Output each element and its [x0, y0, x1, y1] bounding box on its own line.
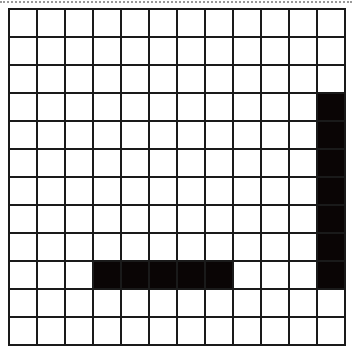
grid-cell[interactable] — [94, 318, 122, 346]
grid-cell[interactable] — [234, 150, 262, 178]
grid-cell[interactable] — [234, 66, 262, 94]
grid-cell[interactable] — [290, 122, 318, 150]
grid-cell[interactable] — [38, 290, 66, 318]
grid-cell[interactable] — [178, 206, 206, 234]
grid-cell[interactable] — [262, 290, 290, 318]
grid-cell[interactable] — [10, 262, 38, 290]
grid-cell[interactable] — [10, 94, 38, 122]
grid-cell[interactable] — [38, 318, 66, 346]
grid-cell-filled[interactable] — [122, 262, 150, 290]
grid-cell[interactable] — [318, 38, 346, 66]
grid-cell-filled[interactable] — [318, 234, 346, 262]
grid-cell[interactable] — [178, 66, 206, 94]
grid-cell[interactable] — [38, 38, 66, 66]
grid-cell[interactable] — [66, 38, 94, 66]
grid-cell[interactable] — [94, 290, 122, 318]
grid-cell[interactable] — [10, 178, 38, 206]
grid-cell[interactable] — [122, 150, 150, 178]
grid-cell[interactable] — [66, 10, 94, 38]
grid-cell[interactable] — [206, 66, 234, 94]
grid-cell[interactable] — [38, 122, 66, 150]
grid-cell[interactable] — [290, 206, 318, 234]
grid-cell[interactable] — [262, 150, 290, 178]
grid-cell[interactable] — [150, 38, 178, 66]
grid-cell[interactable] — [206, 150, 234, 178]
grid-cell[interactable] — [290, 234, 318, 262]
grid-cell-filled[interactable] — [318, 178, 346, 206]
grid-cell[interactable] — [150, 94, 178, 122]
grid-cell[interactable] — [290, 178, 318, 206]
grid-cell[interactable] — [38, 262, 66, 290]
grid-cell[interactable] — [66, 262, 94, 290]
grid-cell[interactable] — [150, 150, 178, 178]
grid-cell[interactable] — [150, 290, 178, 318]
grid-cell[interactable] — [94, 206, 122, 234]
grid-cell[interactable] — [234, 122, 262, 150]
grid-cell[interactable] — [94, 178, 122, 206]
grid-cell[interactable] — [150, 206, 178, 234]
grid-cell[interactable] — [178, 94, 206, 122]
grid-cell[interactable] — [150, 318, 178, 346]
grid-cell[interactable] — [234, 38, 262, 66]
grid-cell[interactable] — [290, 66, 318, 94]
grid-cell[interactable] — [10, 206, 38, 234]
grid-cell[interactable] — [234, 290, 262, 318]
grid-cell[interactable] — [262, 262, 290, 290]
grid-cell[interactable] — [122, 94, 150, 122]
grid-cell[interactable] — [262, 318, 290, 346]
grid-cell[interactable] — [178, 290, 206, 318]
grid-cell[interactable] — [122, 38, 150, 66]
grid-cell-filled[interactable] — [178, 262, 206, 290]
grid-cell[interactable] — [66, 94, 94, 122]
grid-cell[interactable] — [94, 66, 122, 94]
grid-cell[interactable] — [10, 122, 38, 150]
grid-cell[interactable] — [262, 122, 290, 150]
grid-cell[interactable] — [94, 94, 122, 122]
grid-cell[interactable] — [94, 150, 122, 178]
grid-cell[interactable] — [150, 122, 178, 150]
grid-cell-filled[interactable] — [206, 262, 234, 290]
grid-cell[interactable] — [150, 10, 178, 38]
grid-cell[interactable] — [206, 290, 234, 318]
grid-cell[interactable] — [178, 38, 206, 66]
grid-cell[interactable] — [178, 178, 206, 206]
grid-cell[interactable] — [262, 10, 290, 38]
grid-cell[interactable] — [262, 206, 290, 234]
grid-cell[interactable] — [122, 206, 150, 234]
grid-cell[interactable] — [122, 318, 150, 346]
grid-cell[interactable] — [10, 10, 38, 38]
grid-cell[interactable] — [122, 290, 150, 318]
grid-cell[interactable] — [38, 94, 66, 122]
grid-cell[interactable] — [10, 290, 38, 318]
grid-cell[interactable] — [262, 66, 290, 94]
grid-cell[interactable] — [38, 234, 66, 262]
grid-cell[interactable] — [10, 318, 38, 346]
grid-cell[interactable] — [206, 206, 234, 234]
grid-cell[interactable] — [178, 234, 206, 262]
grid-cell[interactable] — [66, 66, 94, 94]
grid-cell[interactable] — [122, 234, 150, 262]
grid-cell[interactable] — [150, 178, 178, 206]
grid-cell[interactable] — [10, 234, 38, 262]
grid-cell[interactable] — [318, 10, 346, 38]
grid-cell[interactable] — [206, 10, 234, 38]
grid-cell[interactable] — [234, 262, 262, 290]
grid-cell[interactable] — [10, 66, 38, 94]
grid-cell[interactable] — [290, 38, 318, 66]
grid-cell-filled[interactable] — [94, 262, 122, 290]
grid-cell[interactable] — [206, 38, 234, 66]
grid-cell-filled[interactable] — [318, 94, 346, 122]
grid-cell[interactable] — [10, 38, 38, 66]
grid-cell[interactable] — [290, 94, 318, 122]
grid-cell[interactable] — [290, 10, 318, 38]
grid-cell[interactable] — [66, 290, 94, 318]
grid-cell-filled[interactable] — [318, 262, 346, 290]
grid-cell-filled[interactable] — [150, 262, 178, 290]
grid-cell[interactable] — [206, 318, 234, 346]
grid-cell[interactable] — [122, 122, 150, 150]
grid-cell[interactable] — [234, 94, 262, 122]
grid-cell[interactable] — [234, 234, 262, 262]
grid-cell[interactable] — [234, 206, 262, 234]
grid-cell[interactable] — [38, 150, 66, 178]
grid-cell[interactable] — [66, 318, 94, 346]
